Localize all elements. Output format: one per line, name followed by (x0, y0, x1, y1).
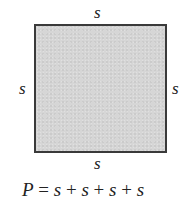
formula-equals: = (34, 179, 54, 197)
square-shape (34, 24, 167, 153)
formula-plus-1: + (61, 179, 81, 197)
formula-lhs: P (22, 179, 34, 197)
perimeter-formula: P = s + s + s + s (22, 180, 144, 197)
formula-term-4: s (137, 179, 144, 197)
formula-plus-2: + (89, 179, 109, 197)
side-label-left: s (19, 80, 26, 97)
side-label-right: s (172, 80, 179, 97)
side-label-top: s (94, 4, 101, 21)
side-label-bottom: s (94, 155, 101, 172)
formula-plus-3: + (116, 179, 136, 197)
formula-term-2: s (81, 179, 88, 197)
